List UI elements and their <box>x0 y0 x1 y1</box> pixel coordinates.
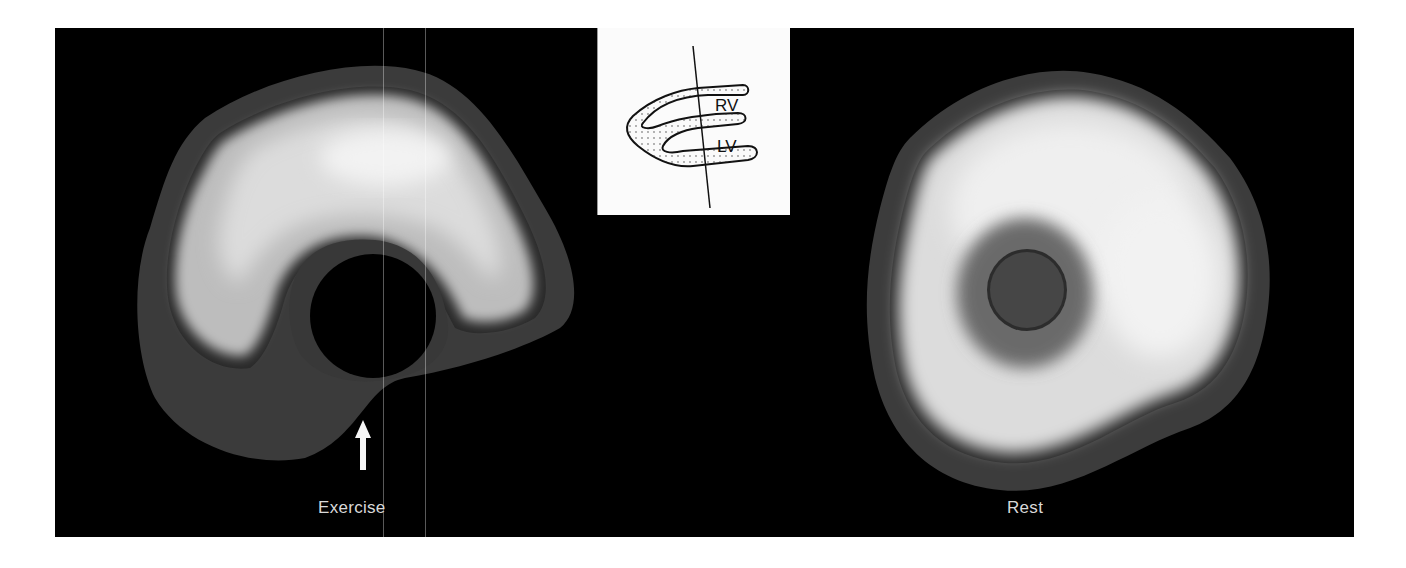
rest-scan-image <box>790 28 1354 537</box>
arrow-up-icon <box>355 420 371 470</box>
scan-artifact-line <box>383 28 384 537</box>
rv-label: RV <box>715 96 739 115</box>
exercise-scan-image <box>55 28 615 537</box>
exercise-label: Exercise <box>318 498 386 518</box>
heart-diagram-inset: RV LV <box>597 28 790 215</box>
scan-artifact-line <box>425 28 426 537</box>
rest-label: Rest <box>1007 498 1043 518</box>
lv-label: LV <box>717 137 737 156</box>
heart-cross-section-diagram: RV LV <box>598 28 790 215</box>
image-panel: Exercise RV LV Rest <box>55 28 1354 537</box>
